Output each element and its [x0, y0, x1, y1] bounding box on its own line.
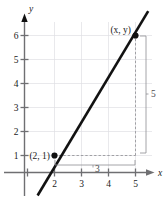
- coordinate-plane-svg: 1 2 3 4 5 6 2 3 4 5 y x (2, 1) (x, y) 3 …: [0, 0, 166, 203]
- point-label-2-1: (2, 1): [29, 151, 50, 162]
- grid-lines: [24, 22, 152, 173]
- x-tick-label-3: 3: [79, 179, 84, 189]
- x-axis-label: x: [157, 168, 163, 178]
- y-axis-label: y: [28, 4, 34, 14]
- y-tick-label-4: 4: [14, 79, 19, 89]
- y-axis-arrowhead: [21, 14, 27, 23]
- x-tick-label-4: 4: [106, 179, 111, 189]
- axes: [4, 14, 155, 197]
- y-tick-label-2: 2: [14, 127, 19, 137]
- run-brace-label: 3: [95, 164, 100, 174]
- rise-brace-label: 5: [151, 89, 156, 99]
- y-tick-label-3: 3: [14, 103, 19, 113]
- x-axis-arrowhead: [146, 169, 155, 175]
- y-tick-label-5: 5: [14, 55, 19, 65]
- rise-brace-path: [140, 36, 149, 153]
- rise-brace: [140, 36, 149, 153]
- slope-graph-figure: 1 2 3 4 5 6 2 3 4 5 y x (2, 1) (x, y) 3 …: [0, 0, 166, 203]
- y-tick-label-1: 1: [14, 151, 19, 161]
- point-marker-2-1: [51, 152, 57, 158]
- x-tick-label-5: 5: [133, 179, 138, 189]
- y-tick-label-6: 6: [14, 31, 19, 41]
- x-tick-label-2: 2: [52, 179, 57, 189]
- point-label-x-y: (x, y): [110, 25, 131, 36]
- point-marker-x-y: [132, 32, 138, 38]
